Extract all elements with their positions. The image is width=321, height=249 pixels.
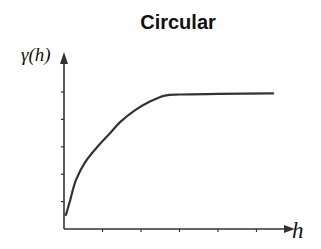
y-axis-arrow-icon (60, 52, 68, 64)
x-axis-arrow-icon (284, 225, 295, 233)
axes (60, 52, 295, 233)
plot-area (0, 0, 321, 249)
axis-ticks (61, 92, 257, 232)
variogram-curve (66, 93, 273, 215)
